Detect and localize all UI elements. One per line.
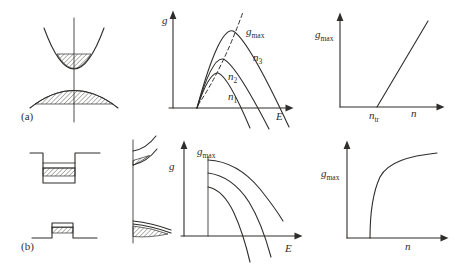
gmax-peak-label: gmax bbox=[246, 25, 265, 40]
qw-gmax-plot: gmax n bbox=[321, 141, 449, 253]
qw-gmax-ylabel: gmax bbox=[321, 167, 340, 182]
qw-gain-curve-mid bbox=[208, 173, 271, 257]
qw-gain-curve-high bbox=[208, 160, 283, 221]
y-axis-arrow-icon bbox=[181, 141, 188, 150]
x-axis-arrow-icon bbox=[295, 233, 303, 240]
qw-gmax-xlabel: n bbox=[405, 240, 411, 252]
textbook-figure: (a) g E gmax n3 n2 n1 gmax ntr n bbox=[0, 0, 467, 266]
bulk-gain-plot: g E gmax n3 n2 n1 bbox=[162, 11, 294, 130]
x-axis-arrow-icon bbox=[441, 235, 449, 242]
x-axis-arrow-icon bbox=[286, 105, 294, 112]
gmax-envelope-dashed-line bbox=[198, 12, 243, 105]
bulk-band-diagram: (a) bbox=[21, 18, 118, 123]
x-axis-arrow-icon bbox=[437, 104, 445, 111]
conduction-band-electron-fill-hatch bbox=[57, 54, 91, 69]
gmax-linear-line bbox=[377, 21, 428, 107]
qw-well-electron-fill-hatch bbox=[43, 168, 75, 176]
panel-b-label: (b) bbox=[21, 240, 34, 253]
transparency-density-label: ntr bbox=[369, 109, 380, 124]
subband-curve-upper bbox=[133, 136, 156, 151]
bulk-gmax-plot: gmax ntr n bbox=[315, 13, 445, 124]
y-axis-arrow-icon bbox=[344, 141, 351, 150]
gmax-saturation-curve bbox=[370, 153, 437, 238]
y-axis-arrow-icon bbox=[337, 13, 344, 22]
qw-gain-curve-low bbox=[208, 187, 250, 262]
qw-gmax-peak-label: gmax bbox=[197, 145, 216, 160]
bulk-gain-xlabel: E bbox=[275, 110, 283, 122]
qw-gain-ylabel: g bbox=[169, 160, 175, 172]
n3-curve-label: n3 bbox=[253, 51, 263, 66]
qw-gain-xlabel: E bbox=[284, 242, 292, 254]
panel-a-label: (a) bbox=[21, 110, 34, 123]
y-axis-arrow-icon bbox=[170, 11, 177, 20]
subband-electron-fill-hatch bbox=[133, 156, 150, 166]
bulk-gmax-xlabel: n bbox=[411, 107, 417, 119]
valence-band-hole-fill-hatch bbox=[35, 91, 113, 105]
qw-band-diagram: (b) bbox=[21, 153, 100, 253]
qw-gain-plot: g gmax E bbox=[169, 141, 303, 263]
qw-subband-dispersion bbox=[133, 136, 171, 243]
n1-curve-label: n1 bbox=[228, 90, 238, 105]
bulk-gmax-ylabel: gmax bbox=[315, 28, 334, 43]
bulk-gain-ylabel: g bbox=[162, 14, 168, 26]
qw-bump-hole-fill-hatch bbox=[52, 228, 73, 234]
figure-canvas: (a) g E gmax n3 n2 n1 gmax ntr n bbox=[0, 0, 467, 266]
